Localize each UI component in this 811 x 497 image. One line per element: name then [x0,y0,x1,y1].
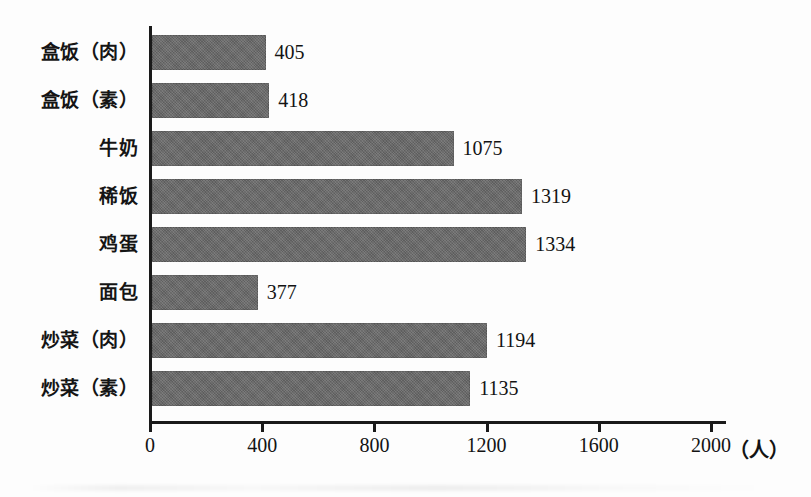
x-axis-line [150,421,726,424]
x-axis-tick-label: 400 [247,434,277,457]
x-axis-unit-label: （人） [729,434,789,463]
bar-value-label: 1075 [454,131,503,166]
bar-row: 炒菜（素）1135 [0,371,811,406]
x-axis-tick-label: 800 [359,434,389,457]
bar-row: 盒饭（肉）405 [0,35,811,70]
bar [152,179,522,214]
x-axis-tick-mark [710,423,713,432]
x-axis-tick-label: 1200 [467,434,507,457]
category-label: 炒菜（肉） [0,323,138,358]
category-label: 牛奶 [0,131,138,166]
category-label: 盒饭（肉） [0,35,138,70]
bar-value-label: 418 [269,83,308,118]
bar-value-label: 1334 [526,227,575,262]
x-axis-tick-mark [598,423,601,432]
bar-row: 牛奶1075 [0,131,811,166]
x-axis-tick-label: 1600 [579,434,619,457]
bar-row: 炒菜（肉）1194 [0,323,811,358]
bar [152,83,269,118]
bar-value-label: 1135 [470,371,518,406]
bar [152,275,258,310]
bar [152,35,266,70]
bar [152,131,454,166]
bar-value-label: 1319 [522,179,571,214]
x-axis-tick-label: 2000 [691,434,731,457]
category-label: 面包 [0,275,138,310]
x-axis-tick-mark [486,423,489,432]
x-axis-tick-label: 0 [145,434,155,457]
scan-artifact [30,485,770,491]
bar-chart: 盒饭（肉）405盒饭（素）418牛奶1075稀饭1319鸡蛋1334面包377炒… [0,0,811,497]
x-axis-tick-mark [149,423,152,432]
bar [152,323,487,358]
bar-row: 面包377 [0,275,811,310]
bar [152,227,526,262]
bar-value-label: 377 [258,275,297,310]
category-label: 鸡蛋 [0,227,138,262]
bar-value-label: 405 [266,35,305,70]
bar-value-label: 1194 [487,323,535,358]
category-label: 炒菜（素） [0,371,138,406]
category-label: 盒饭（素） [0,83,138,118]
x-axis-tick-mark [261,423,264,432]
category-label: 稀饭 [0,179,138,214]
x-axis-tick-mark [373,423,376,432]
bar-row: 盒饭（素）418 [0,83,811,118]
bar-row: 稀饭1319 [0,179,811,214]
bar [152,371,470,406]
bar-row: 鸡蛋1334 [0,227,811,262]
